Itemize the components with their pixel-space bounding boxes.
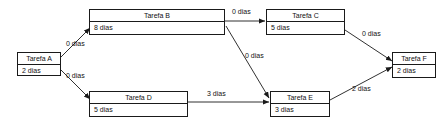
node-tarefa-e[interactable]: Tarefa E 3 dias <box>270 91 330 117</box>
node-tarefa-f[interactable]: Tarefa F 2 dias <box>392 52 436 78</box>
node-tarefa-d[interactable]: Tarefa D 5 dias <box>89 91 188 117</box>
node-tarefa-e-title: Tarefa E <box>271 92 329 104</box>
node-tarefa-c[interactable]: Tarefa C 5 dias <box>266 9 345 35</box>
node-tarefa-b-duration: 8 dias <box>90 22 224 34</box>
node-tarefa-a-title: Tarefa A <box>18 53 60 65</box>
node-tarefa-b-title: Tarefa B <box>90 10 224 22</box>
edge-label-b-c: 0 dias <box>232 8 251 15</box>
edge-label-a-b: 0 dias <box>66 40 85 47</box>
edge-label-c-f: 0 dias <box>362 30 381 37</box>
node-tarefa-c-title: Tarefa C <box>267 10 344 22</box>
node-tarefa-d-title: Tarefa D <box>90 92 187 104</box>
node-tarefa-d-duration: 5 dias <box>90 104 187 116</box>
node-tarefa-a-duration: 2 dias <box>18 65 60 75</box>
edge-label-b-e: 0 dias <box>245 52 264 59</box>
edge-e-f <box>330 67 392 100</box>
edge-b-e <box>226 26 269 98</box>
edge-label-d-e: 3 dias <box>207 90 226 97</box>
node-tarefa-f-title: Tarefa F <box>393 53 435 65</box>
node-tarefa-e-duration: 3 dias <box>271 104 329 116</box>
node-tarefa-c-duration: 5 dias <box>267 22 344 34</box>
node-tarefa-f-duration: 2 dias <box>393 65 435 77</box>
node-tarefa-a[interactable]: Tarefa A 2 dias <box>17 52 61 76</box>
network-diagram-canvas: Tarefa A 2 dias Tarefa B 8 dias Tarefa C… <box>0 0 445 128</box>
edge-label-e-f: 2 dias <box>352 85 371 92</box>
node-tarefa-b[interactable]: Tarefa B 8 dias <box>89 9 225 35</box>
edge-label-a-d: 0 dias <box>66 72 85 79</box>
